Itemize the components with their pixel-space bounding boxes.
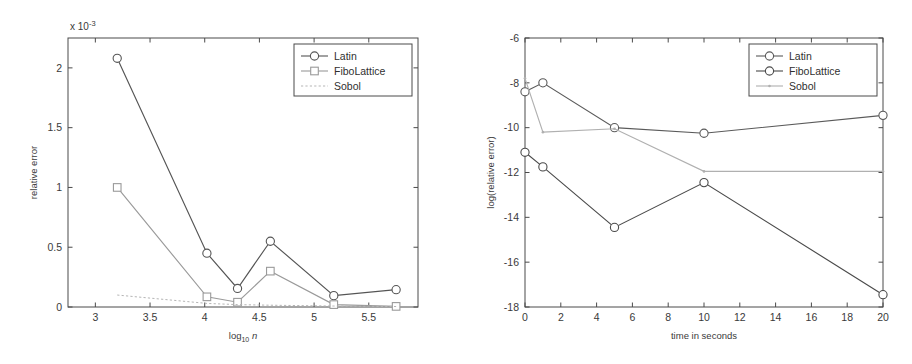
legend-sample-marker [765, 67, 773, 75]
y-tick-label: 2 [56, 62, 62, 74]
x-tick-label: 10 [698, 311, 710, 323]
x-tick-label: 6 [629, 311, 635, 323]
left-chart-svg: 33.544.555.500.511.52x 10-3log10 nrelati… [0, 0, 456, 364]
x-axis-title-composite: log10 n [229, 330, 257, 343]
legend-sample-marker [311, 67, 319, 75]
legend-label: FiboLattice [789, 65, 841, 77]
x-tick-label: 18 [841, 311, 853, 323]
series-point-3-marker [266, 237, 274, 245]
series-point-3-marker [267, 267, 275, 275]
legend-item-fibolattice[interactable]: FiboLattice [756, 65, 841, 77]
x-tick-label: 3.5 [143, 311, 158, 323]
series-line [525, 152, 883, 294]
legend-label: Latin [334, 50, 357, 62]
legend-label: FiboLattice [334, 65, 386, 77]
y-tick-label: -16 [504, 256, 519, 268]
series-point-5-marker [392, 286, 400, 294]
series-point-1-marker [539, 163, 547, 171]
series-point-3-marker [700, 178, 708, 186]
legend-sample-marker [765, 52, 773, 60]
y-axis-title: relative error [28, 146, 39, 199]
series-point-0-marker [524, 77, 527, 80]
x-tick-label: 14 [770, 311, 782, 323]
series-point-1-marker [203, 293, 211, 301]
figure-canvas: 33.544.555.500.511.52x 10-3log10 nrelati… [0, 0, 912, 364]
series-point-3-marker [703, 170, 706, 173]
legend-label: Sobol [334, 80, 361, 92]
x-tick-label: 20 [877, 311, 889, 323]
x-tick-label: 2 [558, 311, 564, 323]
x-tick-label: 4.5 [252, 311, 267, 323]
x-tick-label: 4 [202, 311, 208, 323]
legend-sample-marker [310, 52, 318, 60]
y-tick-label: -14 [504, 211, 519, 223]
legend-label: Latin [789, 50, 812, 62]
series-point-0-marker [521, 88, 529, 96]
series-point-2-marker [613, 127, 616, 130]
series-point-3-marker [700, 129, 708, 137]
y-tick-label: 1 [56, 181, 62, 193]
legend[interactable]: LatinFiboLatticeSobol [294, 44, 412, 96]
y-axis-exponent: x 10-3 [70, 19, 96, 32]
y-exponent-text: x 10-3 [70, 19, 96, 32]
legend-label: Sobol [789, 80, 816, 92]
x-tick-label: 16 [806, 311, 818, 323]
x-tick-label: 5 [311, 311, 317, 323]
series-point-4-marker [330, 301, 338, 309]
series-point-1-marker [539, 79, 547, 87]
y-tick-label: -8 [510, 77, 519, 89]
x-tick-label: 12 [734, 311, 746, 323]
x-axis-title: time in seconds [671, 330, 737, 341]
y-tick-label: 0.5 [47, 241, 62, 253]
y-tick-label: -10 [504, 121, 519, 133]
series-point-1-marker [542, 131, 545, 134]
legend[interactable]: LatinFiboLatticeSobol [749, 44, 877, 96]
x-tick-label: 4 [594, 311, 600, 323]
right-chart-svg: 02468101214161820-18-16-14-12-10-8-6time… [456, 0, 912, 364]
legend-sample-marker [768, 85, 771, 88]
y-tick-label: 1.5 [47, 121, 62, 133]
y-axis-title: log(relative error) [485, 136, 496, 208]
series-point-2-marker [233, 284, 241, 292]
series-point-0-marker [113, 54, 121, 62]
x-tick-label: 5.5 [361, 311, 376, 323]
y-tick-label: -12 [504, 166, 519, 178]
series-point-4-marker [879, 291, 887, 299]
series-point-0-marker [521, 148, 529, 156]
y-tick-label: 0 [56, 301, 62, 313]
chart-panel-left: 33.544.555.500.511.52x 10-3log10 nrelati… [0, 0, 456, 364]
chart-panel-right: 02468101214161820-18-16-14-12-10-8-6time… [456, 0, 912, 364]
y-tick-label: -6 [510, 32, 519, 44]
series-point-4-marker [882, 170, 885, 173]
series-point-2-marker [610, 223, 618, 231]
x-tick-label: 0 [522, 311, 528, 323]
series-line [117, 187, 396, 306]
series-fibolattice [113, 184, 400, 311]
x-tick-label: 8 [665, 311, 671, 323]
series-point-4-marker [879, 111, 887, 119]
series-point-0-marker [113, 184, 121, 192]
y-tick-label: -18 [504, 301, 519, 313]
x-tick-label: 3 [92, 311, 98, 323]
series-point-1-marker [203, 249, 211, 257]
series-point-4-marker [330, 292, 338, 300]
